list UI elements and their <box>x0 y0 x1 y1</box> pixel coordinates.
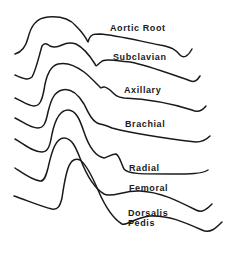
label-dorsalis-pedis-line1: Dorsalis <box>128 208 168 218</box>
waveforms-canvas <box>0 0 236 256</box>
label-subclavian: Subclavian <box>113 52 167 62</box>
arterial-waveforms-figure: Aortic Root Subclavian Axillary Brachial… <box>0 0 236 256</box>
label-axillary: Axillary <box>124 85 161 95</box>
waveform-dorsalis-pedis <box>14 159 222 231</box>
waveform-radial <box>15 110 208 174</box>
label-radial: Radial <box>129 163 160 173</box>
waveform-axillary <box>15 63 206 111</box>
label-dorsalis-pedis-line2: Pedis <box>128 218 155 228</box>
label-femoral: Femoral <box>129 183 168 193</box>
waveform-brachial <box>15 90 210 142</box>
label-aortic-root: Aortic Root <box>110 23 166 33</box>
label-brachial: Brachial <box>125 119 165 129</box>
